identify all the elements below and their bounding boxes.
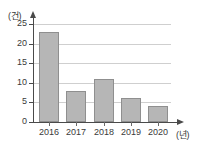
y-axis-tick-label-wrap: 20 [0,39,27,48]
y-axis-tick-label-wrap: 15 [0,58,27,67]
chart-screenshot: (건) 0510152025 20162017201820192020 (년) [0,0,206,156]
bar-chart: (건) 0510152025 20162017201820192020 (년) [0,0,206,156]
x-axis-tick [49,122,50,126]
x-axis-tick-label: 2018 [90,127,118,137]
x-axis-arrow-icon [177,119,184,125]
y-axis-tick-label-wrap: 0 [0,117,27,126]
y-axis-tick-label-wrap: 10 [0,78,27,87]
y-axis-tick-label: 5 [1,97,27,106]
y-axis-tick-label-wrap: 25 [0,19,27,28]
y-axis-tick-label: 25 [1,19,27,28]
bar [66,91,86,122]
bar [39,32,59,122]
bar [94,79,114,122]
x-axis-tick-label: 2019 [117,127,145,137]
bar [121,98,141,122]
y-axis-tick-label: 20 [1,39,27,48]
y-axis-line [33,17,34,123]
y-axis-tick-label: 10 [1,78,27,87]
x-axis-tick-label: 2020 [144,127,172,137]
x-axis-tick [158,122,159,126]
x-axis-line [33,122,178,123]
x-axis-tick [104,122,105,126]
gridline [34,24,171,25]
x-axis-tick [131,122,132,126]
y-axis-tick-label: 0 [1,117,27,126]
x-axis-tick [76,122,77,126]
x-axis-tick-label: 2016 [35,127,63,137]
bar [148,106,168,122]
y-axis-tick-label-wrap: 5 [0,97,27,106]
x-axis-unit-label: (년) [176,128,189,141]
y-axis-tick-label: 15 [1,58,27,67]
x-axis-tick-label: 2017 [62,127,90,137]
y-axis-arrow-icon [30,11,36,18]
